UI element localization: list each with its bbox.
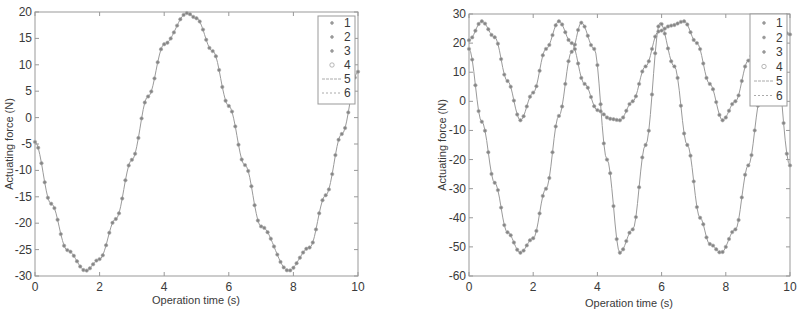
y-tick-label: -50 xyxy=(449,240,467,254)
y-tick-label: -60 xyxy=(449,269,467,283)
y-tick-label: 5 xyxy=(25,84,32,98)
x-tick-label: 6 xyxy=(658,280,665,294)
y-tick-label: -25 xyxy=(15,243,33,257)
y-tick-label: -20 xyxy=(15,216,33,230)
plot-area xyxy=(33,11,359,276)
x-axis-label: Operation time (s) xyxy=(152,294,240,306)
y-tick-label: 20 xyxy=(453,36,467,50)
y-tick-label: -30 xyxy=(15,269,33,283)
chart-left: 20151050-5-10-15-20-25-30 0246810 Actuat… xyxy=(0,0,400,326)
caption-cut-off xyxy=(10,318,310,326)
legend-entry: 2 xyxy=(776,31,783,45)
legend-entry: 4 xyxy=(344,58,351,72)
y-tick-label: -15 xyxy=(15,190,33,204)
x-tick-label: 2 xyxy=(96,280,103,294)
legend-entry: 1 xyxy=(776,16,783,30)
x-tick-label: 0 xyxy=(466,280,473,294)
legend-entry: 5 xyxy=(776,74,783,88)
legend: 123456 xyxy=(318,16,355,104)
y-tick-label: 15 xyxy=(19,31,33,45)
y-tick-label: 0 xyxy=(25,111,32,125)
y-tick-label: -10 xyxy=(449,123,467,137)
y-axis-label: Actuating force (N) xyxy=(436,99,448,191)
y-tick-label: 20 xyxy=(19,5,33,19)
legend-entry: 5 xyxy=(344,72,351,86)
y-tick-label: 10 xyxy=(19,58,33,72)
x-tick-label: 2 xyxy=(530,280,537,294)
y-tick-label: -40 xyxy=(449,211,467,225)
legend: 123456 xyxy=(750,14,787,106)
legend-entry: 6 xyxy=(776,89,783,103)
chart-right: 3020100-10-20-30-40-50-60 0246810 Actuat… xyxy=(400,0,802,326)
y-tick-label: 0 xyxy=(459,94,466,108)
x-tick-label: 8 xyxy=(290,280,297,294)
x-tick-label: 0 xyxy=(32,280,39,294)
x-tick-label: 4 xyxy=(161,280,168,294)
y-tick-label: -10 xyxy=(15,163,33,177)
y-tick-label: 30 xyxy=(453,7,467,21)
x-axis-label: Operation time (s) xyxy=(585,297,673,309)
x-tick-label: 8 xyxy=(722,280,729,294)
y-tick-label: -20 xyxy=(449,153,467,167)
legend-entry: 4 xyxy=(776,60,783,74)
legend-entry: 6 xyxy=(344,86,351,100)
x-tick-label: 10 xyxy=(351,280,365,294)
legend-entry: 1 xyxy=(344,16,351,30)
x-tick-label: 4 xyxy=(594,280,601,294)
x-tick-label: 10 xyxy=(783,280,797,294)
x-tick-label: 6 xyxy=(225,280,232,294)
y-tick-label: -5 xyxy=(21,137,32,151)
y-tick-label: -30 xyxy=(449,182,467,196)
y-tick-label: 10 xyxy=(453,65,467,79)
legend-entry: 3 xyxy=(776,45,783,59)
legend-entry: 3 xyxy=(344,44,351,58)
legend-entry: 2 xyxy=(344,30,351,44)
plot-area xyxy=(467,14,791,276)
y-axis-label: Actuating force (N) xyxy=(3,98,15,190)
